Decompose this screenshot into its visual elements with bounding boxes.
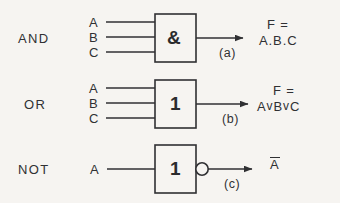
or-expr-operand-2: B bbox=[273, 99, 283, 114]
inversion-bubble-icon bbox=[196, 163, 208, 175]
input-pin-label-and-a: A bbox=[89, 15, 98, 30]
or-expr-operator-2: v bbox=[283, 99, 290, 113]
input-pin-label-and-b: B bbox=[89, 30, 98, 45]
figure-caption-a: (a) bbox=[219, 46, 236, 60]
logic-gates-figure: AND A B C & (a) F = A.B.C OR A B C 1 (b)… bbox=[0, 0, 340, 203]
gate-body-symbol-not: 1 bbox=[170, 158, 181, 180]
or-expr-operand-3: C bbox=[290, 99, 300, 114]
output-expression-or-line1: F = bbox=[273, 83, 295, 98]
output-expression-not: A bbox=[270, 157, 280, 172]
negated-output-label: A bbox=[270, 157, 280, 172]
output-expression-and-line2: A.B.C bbox=[259, 33, 297, 48]
or-expr-operand-1: A bbox=[257, 99, 267, 114]
output-expression-or-line2: AvBvC bbox=[257, 99, 300, 114]
output-expression-and-line1: F = bbox=[267, 17, 289, 32]
gate-body-symbol-and: & bbox=[167, 27, 181, 49]
input-pin-label-or-b: B bbox=[89, 96, 98, 111]
input-pin-label-not-a: A bbox=[90, 162, 99, 177]
gate-type-label-not: NOT bbox=[18, 162, 50, 177]
figure-caption-b: (b) bbox=[222, 112, 239, 126]
gate-body-symbol-or: 1 bbox=[170, 93, 181, 115]
gate-type-label-and: AND bbox=[18, 31, 50, 46]
input-pin-label-or-c: C bbox=[89, 111, 99, 126]
figure-caption-c: (c) bbox=[224, 177, 240, 191]
input-pin-label-and-c: C bbox=[89, 45, 99, 60]
input-pin-label-or-a: A bbox=[89, 81, 98, 96]
gate-type-label-or: OR bbox=[24, 97, 46, 112]
